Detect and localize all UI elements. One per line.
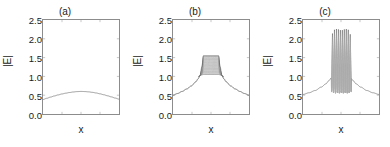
y-tick-label: 2.0 xyxy=(264,33,302,44)
y-axis-ticks-b: 2.5 2.0 1.5 1.0 0.5 0.0 xyxy=(130,19,172,115)
y-tick-label: 0.5 xyxy=(134,90,172,101)
plot-area-c xyxy=(302,19,380,115)
y-axis-label-a: |E| xyxy=(2,55,13,67)
y-tick-label: 1.0 xyxy=(134,71,172,82)
plot-panel-b: (b) 2.5 2.0 1.5 1.0 0.5 0.0 |E| x xyxy=(130,0,260,147)
y-tick-label: 1.0 xyxy=(4,71,42,82)
y-tick-label: 2.5 xyxy=(4,14,42,25)
plot-panel-a: (a) 2.5 2.0 1.5 1.0 0.5 0.0 |E| x xyxy=(0,0,130,147)
y-tick-label: 2.0 xyxy=(134,33,172,44)
y-tick-label: 0.5 xyxy=(4,90,42,101)
figure-panel-group: (a) 2.5 2.0 1.5 1.0 0.5 0.0 |E| x (b) 2.… xyxy=(0,0,390,147)
plot-area-b xyxy=(172,19,250,115)
plot-panel-c: (c) 2.5 2.0 1.5 1.0 0.5 0.0 |E| x xyxy=(260,0,390,147)
y-tick-label: 0.5 xyxy=(264,90,302,101)
plot-canvas-c xyxy=(303,20,379,114)
y-tick-label: 2.5 xyxy=(134,14,172,25)
y-tick-label: 0.0 xyxy=(134,109,172,120)
y-tick-label: 2.0 xyxy=(4,33,42,44)
x-axis-label-a: x xyxy=(42,124,120,135)
y-axis-label-c: |E| xyxy=(262,55,273,67)
y-axis-label-b: |E| xyxy=(132,55,143,67)
x-axis-label-b: x xyxy=(172,124,250,135)
y-axis-ticks-a: 2.5 2.0 1.5 1.0 0.5 0.0 xyxy=(0,19,42,115)
y-tick-label: 2.5 xyxy=(264,14,302,25)
plot-canvas-a xyxy=(43,20,119,114)
y-tick-label: 0.0 xyxy=(4,109,42,120)
y-tick-label: 1.0 xyxy=(264,71,302,82)
x-axis-label-c: x xyxy=(302,124,380,135)
plot-canvas-b xyxy=(173,20,249,114)
y-tick-label: 0.0 xyxy=(264,109,302,120)
y-axis-ticks-c: 2.5 2.0 1.5 1.0 0.5 0.0 xyxy=(260,19,302,115)
plot-area-a xyxy=(42,19,120,115)
